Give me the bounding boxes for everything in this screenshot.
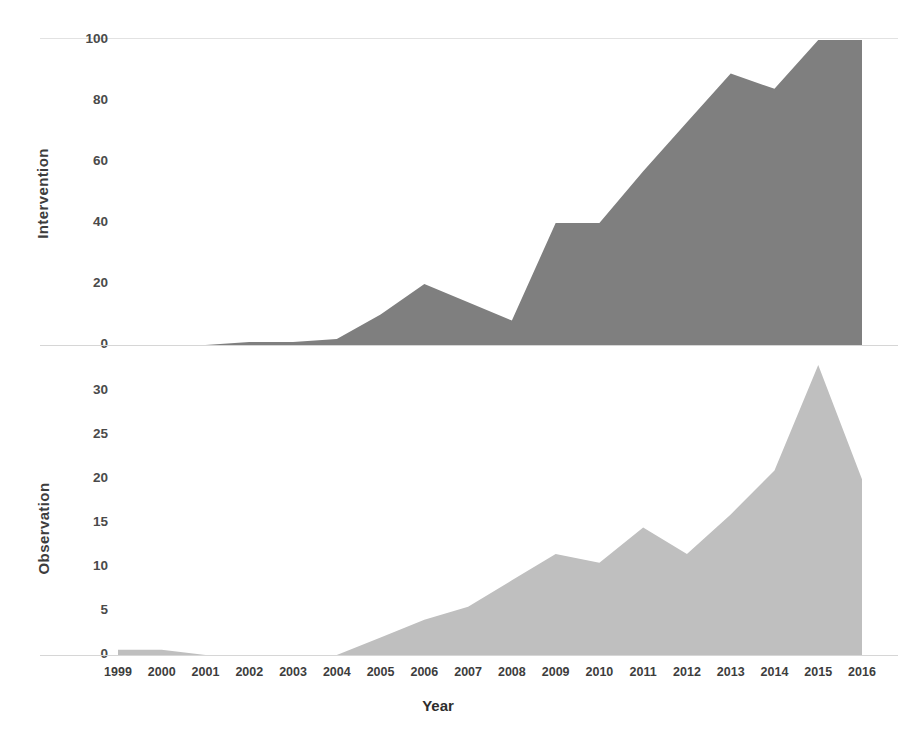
x-tick-label-2012: 2012 [662,665,712,679]
y-tick-label: 60 [48,153,108,168]
intervention-baseline [40,345,898,346]
figure-root: Intervention 020406080100 Observation 05… [0,0,905,731]
x-tick-label-2015: 2015 [793,665,843,679]
y-tick-label: 20 [48,275,108,290]
x-tick-label-2010: 2010 [574,665,624,679]
observation-plot-area [118,365,862,655]
y-tick-label: 25 [48,426,108,441]
x-tick-label-2014: 2014 [749,665,799,679]
y-tick-label: 10 [48,558,108,573]
x-tick-label-2001: 2001 [181,665,231,679]
x-tick-label-1999: 1999 [93,665,143,679]
x-tick-label-2005: 2005 [356,665,406,679]
x-tick-label-2016: 2016 [837,665,887,679]
intervention-y-axis-title: Intervention [34,124,51,264]
x-tick-label-2003: 2003 [268,665,318,679]
x-tick-label-2011: 2011 [618,665,668,679]
panel-intervention: Intervention 020406080100 [0,0,905,365]
x-tick-label-2007: 2007 [443,665,493,679]
x-tick-label-2006: 2006 [399,665,449,679]
y-tick-label: 0 [48,336,108,351]
y-tick-label: 30 [48,382,108,397]
x-tick-label-2009: 2009 [531,665,581,679]
y-tick-label: 15 [48,514,108,529]
y-tick-label: 0 [48,646,108,661]
x-tick-label-2002: 2002 [224,665,274,679]
y-tick-label: 40 [48,214,108,229]
observation-area-series [118,365,862,655]
x-tick-label-2000: 2000 [137,665,187,679]
x-tick-label-2004: 2004 [312,665,362,679]
intervention-top-rule [40,38,898,39]
panel-observation: Observation 051015202530 199920002001200… [0,365,905,665]
y-tick-label: 20 [48,470,108,485]
x-tick-label-2013: 2013 [706,665,756,679]
x-axis-title: Year [378,697,498,714]
y-tick-label: 100 [48,31,108,46]
x-tick-label-2008: 2008 [487,665,537,679]
intervention-area-series [118,40,862,345]
y-tick-label: 5 [48,602,108,617]
observation-baseline [40,655,898,656]
intervention-plot-area [118,40,862,345]
y-tick-label: 80 [48,92,108,107]
